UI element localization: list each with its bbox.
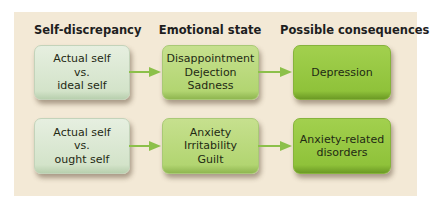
emotion-box-dejection: Disappointment Dejection Sadness: [162, 45, 259, 100]
box-line: Sadness: [167, 79, 255, 93]
discrepancy-box-ideal: Actual self vs. ideal self: [34, 45, 130, 100]
box-line: Dejection: [167, 66, 255, 80]
box-line: Irritability: [184, 139, 237, 153]
box-line: Guilt: [184, 153, 237, 167]
arrow-right-icon: [129, 141, 161, 151]
box-line: vs.: [53, 66, 110, 80]
box-line: Disappointment: [167, 52, 255, 66]
arrow-right-icon: [258, 141, 292, 151]
consequence-box-anxiety-disorders: Anxiety-related disorders: [293, 118, 391, 174]
box-line: Anxiety: [184, 126, 237, 140]
box-line: Depression: [311, 66, 373, 80]
box-line: disorders: [300, 146, 384, 160]
arrow-right-icon: [129, 67, 161, 77]
emotion-box-agitation: Anxiety Irritability Guilt: [162, 118, 259, 174]
header-emotional-state: Emotional state: [158, 23, 262, 37]
discrepancy-box-ought: Actual self vs. ought self: [34, 118, 130, 174]
arrow-right-icon: [258, 67, 292, 77]
box-line: Anxiety-related: [300, 133, 384, 147]
box-line: ideal self: [53, 79, 110, 93]
box-line: ought self: [53, 153, 110, 167]
box-line: Actual self: [53, 52, 110, 66]
header-possible-consequences: Possible consequences: [280, 23, 404, 37]
header-self-discrepancy: Self-discrepancy: [34, 23, 128, 37]
box-line: Actual self: [53, 126, 110, 140]
consequence-box-depression: Depression: [293, 45, 391, 100]
box-line: vs.: [53, 139, 110, 153]
